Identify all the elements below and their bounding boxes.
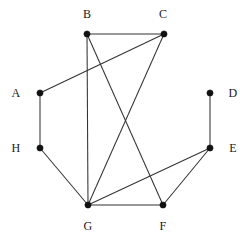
graph-canvas (0, 0, 250, 241)
edge-layer (40, 34, 210, 205)
graph-edge-b-f (87, 34, 163, 205)
graph-node-e (207, 145, 213, 151)
graph-node-b (84, 31, 90, 37)
graph-figure: ABCDEFGH (0, 0, 250, 241)
graph-edge-g-h (40, 148, 88, 205)
graph-node-c (161, 31, 167, 37)
node-label-c: C (159, 8, 167, 20)
graph-node-d (207, 90, 213, 96)
node-label-e: E (229, 142, 237, 154)
graph-edge-e-g (88, 148, 210, 205)
graph-edge-b-g (87, 34, 88, 205)
graph-edge-a-c (40, 34, 164, 93)
graph-node-h (37, 145, 43, 151)
graph-node-g (85, 202, 91, 208)
graph-edge-c-g (88, 34, 164, 205)
node-label-b: B (83, 8, 91, 20)
graph-edge-e-f (163, 148, 210, 205)
node-label-a: A (12, 87, 21, 99)
node-label-g: G (84, 220, 93, 232)
graph-node-a (37, 90, 43, 96)
node-label-h: H (12, 142, 21, 154)
graph-node-f (160, 202, 166, 208)
node-label-f: F (160, 220, 167, 232)
node-label-d: D (229, 87, 238, 99)
